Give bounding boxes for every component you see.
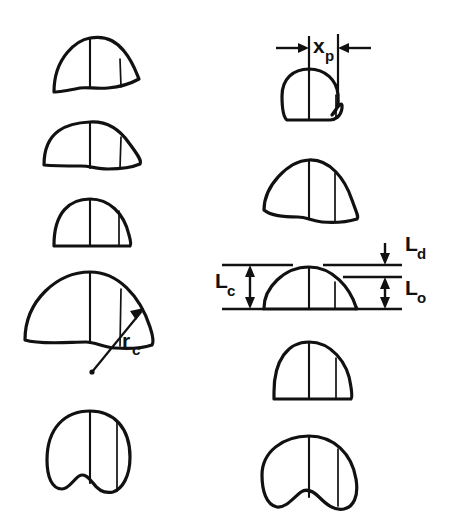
Ld-label-subscript: d (417, 245, 426, 262)
profile-diagram-svg: r c x p (0, 0, 458, 532)
rc-label-subscript: c (132, 341, 140, 358)
xp-label-subscript: p (325, 47, 334, 64)
Lc-label-subscript: c (227, 282, 235, 299)
rc-center-dot (89, 369, 94, 374)
xp-label-base: x (313, 34, 325, 57)
rc-label-base: r (122, 329, 130, 352)
Lo-label-subscript: o (417, 289, 426, 306)
left-shape-1-side-ridge (120, 59, 121, 87)
left-shape-2-side-ridge (120, 137, 121, 168)
diagram-canvas: r c x p (0, 0, 458, 532)
